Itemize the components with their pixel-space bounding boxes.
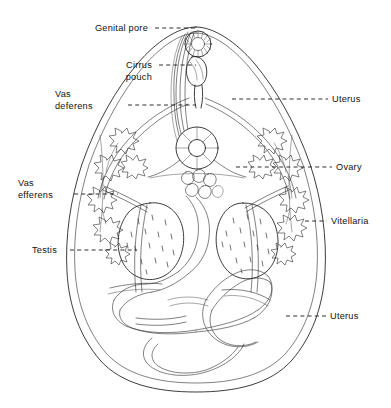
testis-right-structure [216, 203, 278, 279]
label-genital-pore: Genital pore [95, 23, 148, 33]
label-vitellaria: Vitellaria [331, 216, 369, 226]
label-vas-deferens-line2: deferens [55, 101, 93, 111]
label-cirrus-pouch-line1: Cirrus [126, 60, 152, 70]
label-vas-efferens-line1: Vas [18, 178, 34, 188]
testis-left-outline [118, 203, 184, 280]
figure-root: Genital pore Cirrus pouch Vas deferens U… [0, 0, 391, 408]
anatomy-diagram: Genital pore Cirrus pouch Vas deferens U… [0, 0, 391, 408]
testis-left-structure [118, 203, 184, 280]
label-uterus-lower: Uterus [330, 311, 359, 321]
label-vas-deferens-line1: Vas [55, 89, 71, 99]
label-ovary: Ovary [336, 162, 362, 172]
label-vas-efferens-line2: efferens [18, 190, 53, 200]
label-uterus-upper: Uterus [332, 94, 361, 104]
label-cirrus-pouch-line2: pouch [126, 72, 152, 82]
label-testis: Testis [32, 245, 57, 255]
